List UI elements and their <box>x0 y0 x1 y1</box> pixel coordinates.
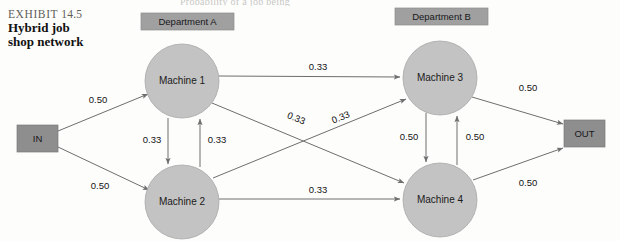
node-machine-4-label: Machine 4 <box>417 194 464 205</box>
department-header-a: Department A <box>141 13 234 30</box>
terminal-in-label: IN <box>33 133 43 144</box>
edge-label-in-to-machine-2: 0.50 <box>91 180 110 191</box>
edge-in-to-machine-1: 0.50 <box>58 94 148 131</box>
department-b-label: Department B <box>412 11 471 22</box>
edge-machine-4-to-machine-3: 0.50 <box>457 116 484 165</box>
node-machine-2: Machine 2 <box>145 165 219 239</box>
edge-machine-1-to-machine-3: 0.33 <box>219 61 400 77</box>
node-machine-3: Machine 3 <box>403 41 477 115</box>
edge-label-machine-4-to-machine-3: 0.50 <box>466 131 485 142</box>
edge-label-machine-1-to-machine-4: 0.33 <box>286 110 307 127</box>
terminal-in: IN <box>17 125 58 152</box>
terminal-out: OUT <box>564 120 605 147</box>
terminals-layer: IN OUT <box>17 120 605 152</box>
node-machine-1: Machine 1 <box>145 44 219 118</box>
hybrid-job-shop-network-diagram: 0.50 0.50 0.33 0.33 0.33 <box>0 0 620 241</box>
edge-machine-1-to-machine-2: 0.33 <box>143 118 168 164</box>
edge-machine-2-to-machine-4: 0.33 <box>219 184 400 199</box>
edges-layer: 0.50 0.50 0.33 0.33 0.33 <box>58 61 563 199</box>
edge-label-machine-1-to-machine-2: 0.33 <box>143 134 162 145</box>
department-a-label: Department A <box>158 16 217 27</box>
node-machine-2-label: Machine 2 <box>159 196 206 207</box>
node-machine-1-label: Machine 1 <box>159 75 206 86</box>
edge-label-machine-1-to-machine-3: 0.33 <box>309 61 328 72</box>
department-header-b: Department B <box>395 8 488 25</box>
edge-machine-3-to-machine-4: 0.50 <box>400 113 426 162</box>
edge-label-machine-3-to-machine-4: 0.50 <box>400 131 419 142</box>
edge-machine-2-to-machine-3: 0.33 <box>213 99 406 178</box>
edge-machine-1-to-machine-4: 0.33 <box>212 103 404 183</box>
edge-label-machine-2-to-machine-4: 0.33 <box>309 184 328 195</box>
node-machine-4: Machine 4 <box>403 163 477 237</box>
node-machine-3-label: Machine 3 <box>417 72 464 83</box>
edge-label-machine-4-to-out: 0.50 <box>519 177 538 188</box>
exhibit-figure: Probability of a job being EXHIBIT 14.5 … <box>0 0 620 241</box>
edge-label-machine-3-to-out: 0.50 <box>519 82 538 93</box>
edge-label-machine-2-to-machine-1: 0.33 <box>208 134 227 145</box>
terminal-out-label: OUT <box>574 128 594 139</box>
edge-in-to-machine-2: 0.50 <box>58 147 149 191</box>
edge-machine-2-to-machine-1: 0.33 <box>200 119 226 167</box>
edge-machine-3-to-out: 0.50 <box>472 82 563 124</box>
department-headers-layer: Department A Department B <box>141 8 488 30</box>
edge-label-in-to-machine-1: 0.50 <box>89 94 108 105</box>
edge-machine-4-to-out: 0.50 <box>473 148 563 188</box>
